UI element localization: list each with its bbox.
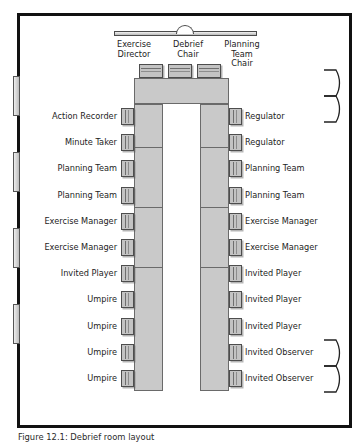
table-head-section [134, 78, 229, 104]
seat-chair-right [229, 187, 242, 204]
wall-window [13, 228, 20, 268]
seat-chair-left [121, 318, 134, 335]
seat-label-left: Action Recorder [52, 111, 117, 121]
door-swing-icon [322, 338, 356, 394]
table-seam [201, 147, 228, 148]
seat-label-left: Exercise Manager [44, 242, 117, 252]
seat-chair-right [229, 370, 242, 387]
head-label-planning-team-chair: Planning Team Chair [216, 40, 268, 69]
seat-chair-left [121, 239, 134, 256]
seat-chair-left [121, 108, 134, 125]
seat-chair-right [229, 291, 242, 308]
head-chair-exercise-director [139, 64, 163, 78]
seat-label-right: Exercise Manager [245, 216, 318, 226]
seat-chair-left [121, 344, 134, 361]
seat-chair-left [121, 160, 134, 177]
seat-label-right: Regulator [245, 111, 285, 121]
head-label-line2: Director [108, 50, 160, 60]
seat-label-right: Invited Player [245, 268, 301, 278]
seat-label-right: Invited Player [245, 321, 301, 331]
table-right-leg [200, 104, 229, 391]
head-chair-planning-team-chair [197, 64, 221, 78]
table-seam [135, 207, 162, 208]
seat-label-left: Exercise Manager [44, 216, 117, 226]
seat-chair-right [229, 108, 242, 125]
seat-label-left: Minute Taker [65, 137, 117, 147]
seat-label-left: Umpire [87, 321, 117, 331]
room-layout-diagram: Exercise Director Debrief Chair Planning… [0, 0, 363, 442]
seat-chair-right [229, 213, 242, 230]
seat-chair-left [121, 213, 134, 230]
seat-chair-left [121, 370, 134, 387]
wall-window [13, 76, 20, 116]
head-label-line2: Chair [216, 59, 268, 69]
table-seam [135, 147, 162, 148]
seat-chair-right [229, 318, 242, 335]
table-seam [201, 207, 228, 208]
seat-label-right: Planning Team [245, 190, 305, 200]
seat-label-left: Planning Team [57, 190, 117, 200]
table-seam [135, 267, 162, 268]
figure-caption: Figure 12.1: Debrief room layout [18, 432, 154, 442]
seat-label-left: Umpire [87, 347, 117, 357]
seat-label-left: Umpire [87, 294, 117, 304]
head-label-line2: Chair [162, 50, 214, 60]
seat-chair-left [121, 134, 134, 151]
seat-label-right: Exercise Manager [245, 242, 318, 252]
head-chair-debrief-chair [168, 64, 192, 78]
seat-label-right: Planning Team [245, 163, 305, 173]
seat-label-right: Invited Player [245, 294, 301, 304]
seat-chair-left [121, 187, 134, 204]
seat-chair-right [229, 160, 242, 177]
seat-label-left: Invited Player [61, 268, 117, 278]
wall-window [13, 304, 20, 344]
seat-label-right: Invited Observer [245, 347, 313, 357]
table-left-leg [134, 104, 163, 391]
seat-chair-right [229, 344, 242, 361]
seat-chair-right [229, 265, 242, 282]
door-swing-icon [322, 68, 356, 124]
head-label-line1: Planning Team [216, 40, 268, 59]
seat-chair-left [121, 265, 134, 282]
wall-window [13, 152, 20, 192]
seat-chair-right [229, 239, 242, 256]
seat-label-left: Planning Team [57, 163, 117, 173]
seat-label-right: Invited Observer [245, 373, 313, 383]
seat-label-left: Umpire [87, 373, 117, 383]
seat-chair-left [121, 291, 134, 308]
seat-label-right: Regulator [245, 137, 285, 147]
table-seam [201, 267, 228, 268]
seat-chair-right [229, 134, 242, 151]
